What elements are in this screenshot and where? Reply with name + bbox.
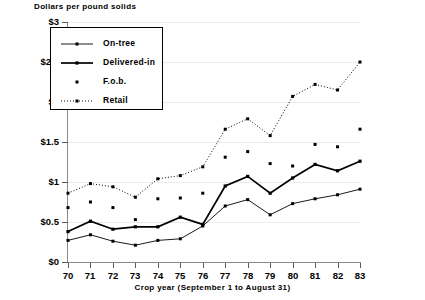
y-tick-label: $1 [48, 176, 59, 187]
data-point [359, 61, 362, 64]
data-point [314, 143, 317, 146]
data-point [134, 244, 137, 247]
data-point [134, 218, 137, 221]
x-tick-label: 74 [146, 270, 170, 281]
y-tick-label: $0 [48, 256, 59, 267]
x-tick-label: 80 [281, 270, 305, 281]
data-point [111, 228, 114, 231]
data-point [156, 239, 159, 242]
legend-item-delivered-in[interactable]: Delivered-in [51, 53, 164, 73]
y-tick-label: $3 [48, 16, 59, 27]
data-point [359, 188, 362, 191]
x-tick-mark [225, 263, 226, 268]
x-tick-mark [180, 263, 181, 268]
x-tick-label: 81 [303, 270, 327, 281]
data-point [89, 233, 92, 236]
series-on-tree [67, 188, 362, 247]
legend-item-f-o-b[interactable]: F.o.b. [51, 72, 164, 92]
x-tick-mark [135, 263, 136, 268]
data-point [89, 220, 92, 223]
data-point [89, 182, 92, 185]
x-tick-mark [90, 263, 91, 268]
x-tick-mark [315, 263, 316, 268]
legend-label: F.o.b. [103, 76, 127, 86]
data-point [291, 165, 294, 168]
data-point [313, 163, 316, 166]
x-axis-line [67, 262, 361, 263]
data-point [111, 240, 114, 243]
data-point [291, 202, 294, 205]
x-tick-label: 71 [78, 270, 102, 281]
x-tick-mark [270, 263, 271, 268]
data-point [224, 205, 227, 208]
legend-item-on-tree[interactable]: On-tree [51, 34, 164, 54]
x-tick-label: 77 [213, 270, 237, 281]
data-point [336, 145, 339, 148]
data-point [201, 223, 204, 226]
x-tick-mark [338, 263, 339, 268]
data-point [359, 128, 362, 131]
legend-swatch-icon [59, 72, 99, 92]
x-tick-mark [158, 263, 159, 268]
legend-swatch-icon [59, 53, 99, 73]
data-point [67, 192, 70, 195]
data-point [67, 206, 70, 209]
data-point [201, 165, 204, 168]
data-point [66, 230, 69, 233]
chart-container: Dollars per pound solids $0$0.5$1$1.5$2$… [0, 0, 425, 300]
data-point [179, 216, 182, 219]
series-line [68, 161, 360, 231]
legend-swatch-icon [59, 91, 99, 111]
x-tick-mark [113, 263, 114, 268]
x-axis-title: Crop year (September 1 to August 31) [0, 283, 425, 292]
legend-label: On-tree [103, 38, 135, 48]
x-tick-mark [293, 263, 294, 268]
data-point [336, 193, 339, 196]
x-tick-label: 72 [101, 270, 125, 281]
y-tick-label: $0.5 [41, 216, 60, 227]
x-tick-label: 70 [56, 270, 80, 281]
data-point [358, 160, 361, 163]
data-point [156, 197, 159, 200]
data-point [224, 128, 227, 131]
data-point [111, 185, 114, 188]
data-point [314, 197, 317, 200]
data-point [269, 213, 272, 216]
data-point [269, 134, 272, 137]
data-point [336, 169, 339, 172]
x-tick-label: 76 [191, 270, 215, 281]
data-point [134, 225, 137, 228]
x-tick-mark [68, 263, 69, 268]
data-point [224, 156, 227, 159]
data-point [156, 177, 159, 180]
data-point [134, 196, 137, 199]
data-point [336, 89, 339, 92]
data-point [291, 176, 294, 179]
x-tick-label: 83 [348, 270, 372, 281]
x-tick-mark [248, 263, 249, 268]
data-point [246, 150, 249, 153]
series-f-o-b [67, 128, 362, 221]
data-point [246, 117, 249, 120]
data-point [89, 201, 92, 204]
data-point [224, 184, 227, 187]
legend-item-retail[interactable]: Retail [51, 91, 164, 111]
x-tick-label: 82 [326, 270, 350, 281]
data-point [179, 174, 182, 177]
x-tick-label: 75 [168, 270, 192, 281]
y-tick-label: $1.5 [41, 136, 60, 147]
data-point [111, 206, 114, 209]
data-point [314, 83, 317, 86]
data-point [246, 175, 249, 178]
data-point [179, 197, 182, 200]
x-tick-mark [360, 263, 361, 268]
x-tick-mark [203, 263, 204, 268]
legend-label: Retail [103, 95, 128, 105]
data-point [269, 162, 272, 165]
legend-label: Delivered-in [103, 57, 155, 67]
data-point [246, 198, 249, 201]
data-point [156, 225, 159, 228]
data-point [179, 237, 182, 240]
series-delivered-in [66, 160, 361, 234]
data-point [291, 95, 294, 98]
